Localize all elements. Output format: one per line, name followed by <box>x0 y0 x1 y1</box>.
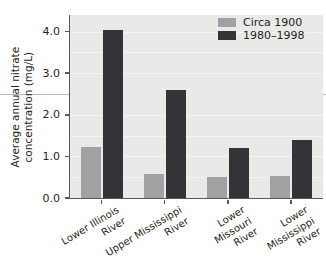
y-axis-tick-label: 0.0 <box>27 193 60 204</box>
legend-label: 1980–1998 <box>243 30 305 41</box>
legend-swatch-1980-1998 <box>218 31 236 40</box>
x-axis-tick <box>101 200 103 204</box>
bar-1980-1998 <box>229 148 249 198</box>
bar-circa-1900 <box>270 176 290 198</box>
y-axis-tick-label: 3.0 <box>27 68 60 79</box>
bar-1980-1998 <box>166 90 186 198</box>
bar-circa-1900 <box>81 147 101 198</box>
y-axis-title: Average annual nitrate concentration (mg… <box>9 15 35 198</box>
bar-circa-1900 <box>144 174 164 198</box>
legend-item: 1980–1998 <box>218 30 305 41</box>
y-axis-tick-label: 2.0 <box>27 109 60 120</box>
chart-figure: Average annual nitrate concentration (mg… <box>0 0 326 258</box>
y-axis-tick-label: 4.0 <box>27 26 60 37</box>
x-axis-tick <box>290 200 292 204</box>
legend-swatch-circa-1900 <box>218 18 236 27</box>
x-axis-tick <box>227 200 229 204</box>
bar-1980-1998 <box>103 30 123 198</box>
bar-circa-1900 <box>207 177 227 198</box>
legend-item: Circa 1900 <box>218 17 302 28</box>
chart-legend: Circa 19001980–1998 <box>218 17 322 47</box>
y-axis-tick-label: 1.0 <box>27 151 60 162</box>
legend-label: Circa 1900 <box>243 17 302 28</box>
bar-1980-1998 <box>292 140 312 198</box>
y-axis-title-line1: Average annual nitrate <box>9 46 21 167</box>
x-axis-tick <box>164 200 166 204</box>
